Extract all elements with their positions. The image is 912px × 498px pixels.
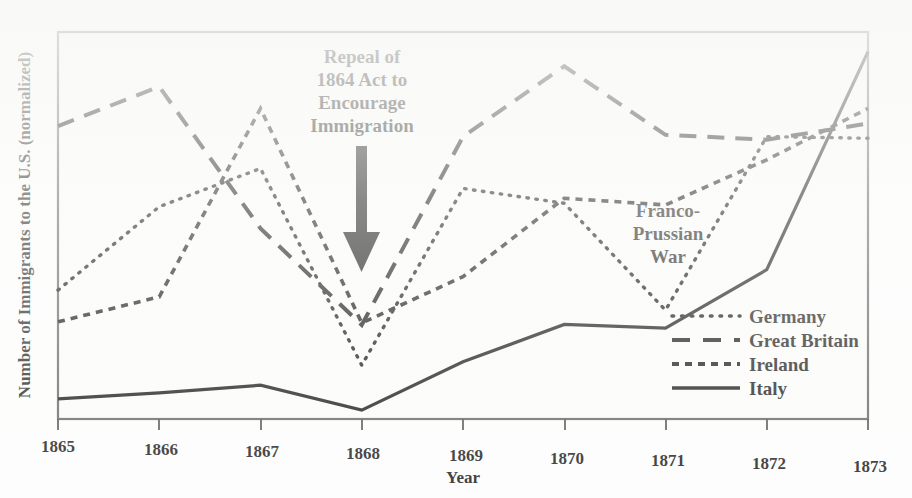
y-axis-title: Number of Immigrants to the U.S. (normal… xyxy=(15,52,34,398)
legend-label-ireland: Ireland xyxy=(749,354,809,375)
annotation-franco-line-2: Prussian xyxy=(633,223,704,244)
x-tick-label-1870: 1870 xyxy=(550,449,584,468)
legend-label-germany: Germany xyxy=(749,306,827,327)
x-axis-ticks xyxy=(58,419,868,430)
x-axis-title: Year xyxy=(446,468,480,487)
x-tick-label-1868: 1868 xyxy=(346,444,380,463)
chart-canvas: 1865 1866 1867 1868 1869 1870 1871 1872 … xyxy=(0,0,912,498)
x-tick-label-1871: 1871 xyxy=(651,451,685,470)
immigration-line-chart-figure: 1865 1866 1867 1868 1869 1870 1871 1872 … xyxy=(0,0,912,498)
annotation-repeal-line-3: Encourage xyxy=(318,92,406,113)
x-tick-label-1866: 1866 xyxy=(144,440,178,459)
annotation-repeal-line-2: 1864 Act to xyxy=(317,69,408,90)
annotation-repeal-line-4: Immigration xyxy=(310,115,414,136)
legend-label-great-britain: Great Britain xyxy=(749,330,859,351)
annotation-franco-line-3: War xyxy=(650,246,686,267)
x-tick-label-1865: 1865 xyxy=(41,437,75,456)
x-tick-label-1869: 1869 xyxy=(449,446,483,465)
annotation-franco-line-1: Franco- xyxy=(636,200,700,221)
annotation-repeal-line-1: Repeal of xyxy=(324,46,401,67)
x-tick-label-1872: 1872 xyxy=(752,454,786,473)
x-tick-label-1873: 1873 xyxy=(853,457,887,476)
legend-label-italy: Italy xyxy=(749,378,788,399)
x-tick-label-1867: 1867 xyxy=(245,442,280,461)
